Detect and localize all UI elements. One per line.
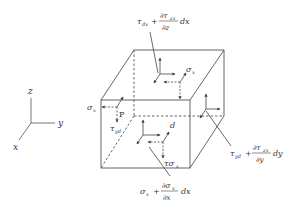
- sigma-x-left-sub: x: [93, 107, 96, 113]
- bottom-formula-denominator: ∂x: [163, 194, 171, 202]
- y-axis-label: y: [57, 118, 64, 128]
- top-formula-tau-sub: dx: [142, 21, 148, 27]
- tau-sigma-front-label: τσ: [164, 159, 174, 168]
- right-formula-numerator: ∂τ: [253, 144, 261, 152]
- bottom-formula-plus: +: [153, 187, 160, 196]
- sigma-x-top-sub: x: [192, 69, 195, 75]
- tau-yd-left-sub: yd: [114, 128, 121, 135]
- top-formula-tail: dx: [180, 17, 190, 26]
- bottom-formula-numerator-sub: x: [172, 185, 175, 191]
- top-formula-denominator: ∂z: [162, 24, 170, 32]
- right-formula-denominator: ∂y: [256, 156, 265, 164]
- bottom-formula-sigma-sub: x: [146, 191, 149, 197]
- stress-arrows: [102, 32, 231, 176]
- right-formula-tail: dy: [273, 149, 283, 158]
- stress-element-diagram: z y x: [0, 0, 290, 210]
- top-formula-numerator: ∂τ: [160, 12, 168, 20]
- top-formula-numerator-sub: zx: [169, 15, 176, 21]
- coordinate-axes: [19, 98, 55, 140]
- cube-front-face: [101, 100, 190, 168]
- bottom-formula-tail: dx: [181, 187, 191, 196]
- right-formula-numerator-sub: zx: [262, 147, 269, 153]
- right-formula-plus: +: [245, 149, 252, 158]
- bottom-formula-numerator: ∂σ: [162, 182, 171, 190]
- point-p-label: P: [119, 110, 125, 119]
- tau-sigma-front-sub: x: [176, 163, 179, 169]
- point-d-label: d: [170, 121, 175, 130]
- right-formula-tau-sub: yd: [234, 153, 241, 160]
- x-axis: [19, 123, 31, 140]
- top-formula-plus: +: [151, 17, 158, 26]
- z-axis-label: z: [27, 86, 33, 96]
- x-axis-label: x: [13, 142, 18, 152]
